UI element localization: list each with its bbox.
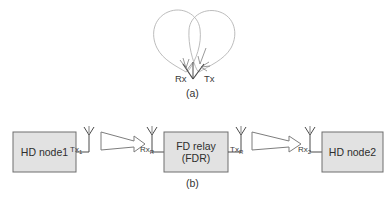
- rxr-antenna-label-base: Rx: [140, 145, 150, 154]
- panel-a-group: [154, 10, 235, 79]
- tx1-antenna-glyph: [84, 126, 94, 152]
- link-relay-to-node2-arrow: [252, 132, 301, 152]
- rx2-antenna-label-sub: 2: [308, 149, 311, 155]
- tx-radiation-lobe: [189, 11, 235, 72]
- hd-node-1-label: HD node1: [13, 146, 76, 158]
- txr-antenna-label: TxR: [230, 146, 243, 154]
- rxr-antenna-label: RxR: [140, 146, 154, 154]
- fd-relay-label: FD relay (FDR): [164, 140, 228, 164]
- hd-node-2-label-line1: HD node2: [329, 146, 376, 158]
- figure-container: Rx Tx (a) HD node1 FD relay (FDR) HD nod…: [0, 0, 390, 198]
- hd-node-2-label: HD node2: [322, 146, 383, 158]
- rx2-antenna-label: Rx2: [298, 146, 311, 154]
- tx1-antenna-label-sub: 1: [79, 149, 82, 155]
- panel-a-caption: (a): [186, 88, 199, 99]
- tx1-antenna-label: Tx1: [70, 146, 82, 154]
- txr-antenna-label-base: Tx: [230, 145, 239, 154]
- txr-antenna-label-sub: R: [239, 149, 243, 155]
- tx-antenna-label: Tx: [204, 74, 215, 84]
- figure-vector-layer: [0, 0, 390, 198]
- fd-relay-label-line1: FD relay: [164, 140, 228, 152]
- link-node1-to-relay-arrow: [101, 132, 145, 152]
- fd-relay-label-line2: (FDR): [164, 152, 228, 164]
- rxr-antenna-label-sub: R: [150, 149, 154, 155]
- panel-b-caption: (b): [186, 178, 199, 189]
- tx-antenna-whiskers: [198, 48, 210, 71]
- rx-antenna-label: Rx: [175, 74, 187, 84]
- hd-node-1-label-line1: HD node1: [21, 146, 68, 158]
- rx2-antenna-label-base: Rx: [298, 145, 308, 154]
- tx1-antenna-label-base: Tx: [70, 145, 79, 154]
